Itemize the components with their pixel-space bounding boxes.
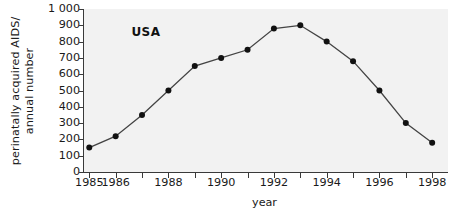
x-axis-title-text: year [252, 196, 277, 209]
data-point [429, 140, 435, 146]
x-axis-tick-label: 1998 [418, 176, 446, 189]
x-axis-tick-label: 1986 [101, 176, 129, 189]
y-axis-tick-label: 400 [46, 101, 80, 112]
y-axis-tick-label: 900 [46, 19, 80, 30]
data-point [165, 88, 171, 94]
x-axis-tick-label: 1994 [312, 176, 340, 189]
data-point [403, 120, 409, 126]
y-axis-tick-label: 500 [46, 85, 80, 96]
y-axis-tick-mark [79, 42, 84, 43]
x-axis-tick-mark [353, 173, 354, 178]
y-axis-tick-mark [79, 139, 84, 140]
y-axis-title-line2: annual number [23, 17, 37, 166]
y-axis-tick-mark [79, 107, 84, 108]
data-point [297, 22, 303, 28]
x-axis-tick-label: 1988 [154, 176, 182, 189]
x-axis-tick-label: 1990 [207, 176, 235, 189]
series-markers [86, 22, 435, 150]
y-axis-tick-label: 300 [46, 117, 80, 128]
y-axis-tick-mark [79, 74, 84, 75]
x-axis-tick-mark [142, 173, 143, 178]
y-axis-tick-label: 200 [46, 133, 80, 144]
y-axis-tick-label: 600 [46, 68, 80, 79]
data-point [245, 47, 251, 53]
data-point [350, 58, 356, 64]
x-axis-line [83, 172, 448, 173]
data-point [324, 39, 330, 45]
data-point [86, 145, 92, 151]
data-point [376, 88, 382, 94]
y-axis-title-line1: perinatally acquired AIDS/ [9, 17, 22, 166]
x-axis-title: year [0, 196, 463, 209]
data-point [113, 133, 119, 139]
x-axis-tick-mark [248, 173, 249, 178]
y-axis-tick-label: 1 000 [46, 3, 80, 14]
x-axis-tick-label: 1985 [75, 176, 103, 189]
x-axis-tick-mark [300, 173, 301, 178]
x-axis-tick-mark [195, 173, 196, 178]
y-axis-tick-mark [79, 172, 84, 173]
y-axis-tick-label: 700 [46, 52, 80, 63]
y-axis-tick-mark [79, 91, 84, 92]
x-axis-tick-label: 1996 [365, 176, 393, 189]
series-line [89, 25, 432, 147]
data-point [271, 26, 277, 32]
x-axis-tick-mark [406, 173, 407, 178]
y-axis-title: perinatally acquired AIDS/ annual number [0, 0, 46, 182]
chart-figure: perinatally acquired AIDS/ annual number… [0, 0, 463, 219]
y-axis-tick-mark [79, 9, 84, 10]
series-annotation-usa: USA [131, 25, 160, 39]
data-point [192, 63, 198, 69]
y-axis-tick-mark [79, 25, 84, 26]
data-point [218, 55, 224, 61]
y-axis-tick-label: 800 [46, 36, 80, 47]
x-axis-tick-label: 1992 [260, 176, 288, 189]
y-axis-tick-mark [79, 156, 84, 157]
y-axis-tick-mark [79, 58, 84, 59]
data-point [139, 112, 145, 118]
y-axis-tick-mark [79, 123, 84, 124]
y-axis-tick-label: 100 [46, 150, 80, 161]
